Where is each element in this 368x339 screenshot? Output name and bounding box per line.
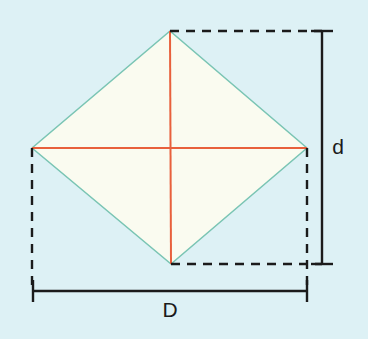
label-minor-diagonal-d: d [332, 135, 344, 158]
rhombus-diagram: d D [0, 0, 368, 339]
label-major-diagonal-D: D [162, 298, 177, 321]
dimension-line-d [311, 31, 333, 264]
minor-diagonal-line [170, 31, 171, 264]
diagram-svg: d D [0, 0, 368, 339]
